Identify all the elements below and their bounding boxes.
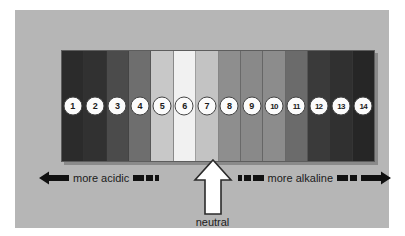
ph-badge-8: 8 bbox=[220, 97, 239, 116]
left-arrow-icon bbox=[39, 171, 69, 185]
neutral-label-wrap: neutral bbox=[15, 216, 405, 228]
ph-band-4: 4 bbox=[129, 51, 151, 161]
ph-badge-1: 1 bbox=[63, 97, 82, 116]
ph-scale-diagram: 1234567891011121314 more acidic more alk… bbox=[0, 0, 405, 236]
ph-band-3: 3 bbox=[107, 51, 129, 161]
ph-badge-3: 3 bbox=[108, 97, 127, 116]
ph-band-13: 13 bbox=[330, 51, 352, 161]
ph-band-2: 2 bbox=[84, 51, 106, 161]
ph-badge-5: 5 bbox=[153, 97, 172, 116]
acidic-dash-bar bbox=[133, 175, 159, 181]
ph-band-14: 14 bbox=[353, 51, 374, 161]
ph-strip: 1234567891011121314 bbox=[61, 50, 375, 162]
alkaline-dash-bar-right bbox=[337, 175, 357, 181]
diagram-panel: 1234567891011121314 more acidic more alk… bbox=[15, 10, 389, 228]
ph-badge-4: 4 bbox=[130, 97, 149, 116]
ph-band-8: 8 bbox=[219, 51, 241, 161]
ph-band-5: 5 bbox=[151, 51, 173, 161]
ph-band-12: 12 bbox=[308, 51, 330, 161]
ph-badge-7: 7 bbox=[197, 97, 216, 116]
alkaline-dash-bar-left bbox=[238, 175, 264, 181]
ph-band-7: 7 bbox=[196, 51, 218, 161]
ph-badge-6: 6 bbox=[175, 97, 194, 116]
ph-badge-10: 10 bbox=[264, 97, 283, 116]
ph-badge-9: 9 bbox=[242, 97, 261, 116]
ph-badge-13: 13 bbox=[331, 97, 350, 116]
alkaline-label: more alkaline bbox=[268, 172, 333, 184]
ph-band-9: 9 bbox=[241, 51, 263, 161]
ph-band-1: 1 bbox=[62, 51, 84, 161]
ph-badge-11: 11 bbox=[287, 97, 306, 116]
alkaline-direction-group: more alkaline bbox=[238, 168, 391, 188]
acidic-direction-group: more acidic bbox=[39, 168, 159, 188]
ph-badge-12: 12 bbox=[309, 97, 328, 116]
ph-badge-2: 2 bbox=[86, 97, 105, 116]
right-arrow-icon bbox=[361, 171, 391, 185]
ph-band-6: 6 bbox=[174, 51, 196, 161]
neutral-up-arrow-icon bbox=[193, 158, 233, 216]
ph-badge-14: 14 bbox=[354, 97, 373, 116]
neutral-label: neutral bbox=[196, 216, 230, 228]
ph-band-11: 11 bbox=[286, 51, 308, 161]
ph-band-10: 10 bbox=[263, 51, 285, 161]
acidic-label: more acidic bbox=[73, 172, 129, 184]
